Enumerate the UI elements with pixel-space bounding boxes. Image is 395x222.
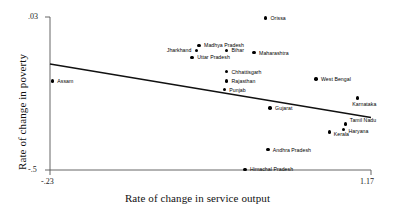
y-tick-label-bottom: -.5 — [28, 165, 37, 174]
data-point-marker — [51, 79, 54, 82]
data-point-marker — [243, 168, 246, 171]
regression-line — [50, 64, 371, 117]
data-point-marker — [314, 77, 317, 80]
data-point-label: Assam — [57, 79, 73, 84]
data-point-label: West Bengal — [321, 77, 351, 82]
scatter-plot-figure: .03 -.5 -.23 1.17 Rate of change in serv… — [0, 0, 395, 222]
data-point-label: Tamil Nadu — [350, 118, 376, 123]
data-point-marker — [268, 106, 271, 109]
data-point-label: Karnataka — [352, 102, 376, 107]
data-point-marker — [264, 16, 267, 19]
data-point-label: Haryana — [348, 129, 368, 134]
data-point-marker — [356, 96, 359, 99]
data-point-label: Maharashtra — [259, 51, 289, 56]
x-axis-title: Rate of change in service output — [0, 192, 395, 204]
y-axis-title: Rate of change in poverty — [16, 54, 28, 170]
x-tick-label-left: -.23 — [41, 177, 54, 186]
data-point-label: Punjab — [229, 88, 245, 93]
data-point-marker — [225, 79, 228, 82]
data-point-label: Orissa — [271, 16, 286, 21]
data-point-label: Jharkhand — [167, 48, 192, 53]
data-point-label: Chhattisgarh — [232, 70, 262, 75]
plot-canvas — [0, 0, 395, 222]
data-point-label: Bihar — [232, 48, 244, 53]
y-tick-label-top: .03 — [28, 12, 38, 21]
data-point-label: Uttar Pradesh — [197, 55, 230, 60]
x-tick-label-right: 1.17 — [360, 177, 374, 186]
data-point-label: Kerala — [334, 132, 349, 137]
data-point-marker — [190, 56, 193, 59]
data-point-label: Rajasthan — [232, 79, 256, 84]
data-point-label: Himachal Pradesh — [250, 167, 293, 172]
data-point-label: Gujarat — [275, 106, 292, 111]
data-point-label: Andhra Pradesh — [273, 148, 311, 153]
data-point-marker — [197, 44, 200, 47]
